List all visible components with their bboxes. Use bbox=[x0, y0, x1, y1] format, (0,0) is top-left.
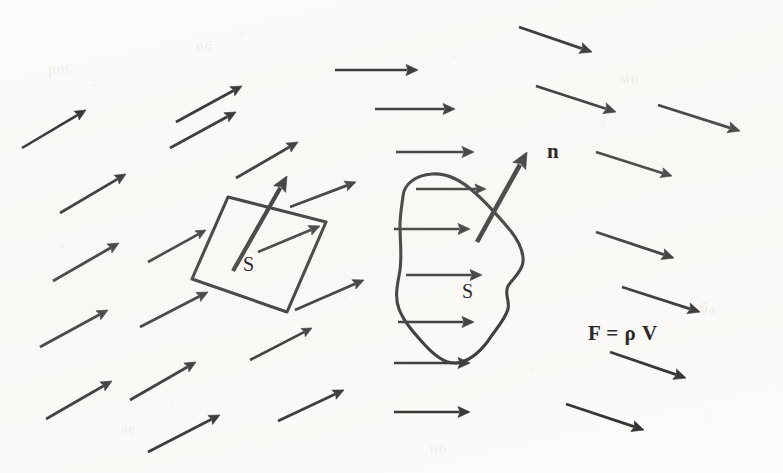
field-arrow bbox=[130, 362, 196, 400]
arrow-shaft bbox=[566, 404, 634, 427]
arrow-head-icon bbox=[462, 316, 474, 327]
field-arrow bbox=[278, 390, 344, 421]
planar-surface-outline bbox=[192, 197, 326, 312]
field-arrow bbox=[536, 86, 616, 114]
arrow-shaft bbox=[148, 234, 199, 262]
arrow-shaft bbox=[596, 232, 664, 255]
arrow-head-icon bbox=[443, 103, 455, 114]
arrow-shaft bbox=[295, 284, 355, 310]
arrow-shaft bbox=[258, 230, 311, 252]
field-arrow bbox=[335, 64, 418, 75]
arrow-shaft bbox=[596, 152, 663, 173]
flux-diagram-figure: рисобмибалено n S S F = ρ V bbox=[0, 0, 783, 473]
arrow-shaft bbox=[40, 315, 100, 347]
arrow-shaft bbox=[477, 165, 520, 242]
normal-vector-arrow bbox=[233, 176, 287, 271]
arrow-shaft bbox=[278, 394, 335, 421]
arrow-head-icon bbox=[458, 406, 470, 417]
arrow-head-icon bbox=[406, 64, 418, 75]
field-arrow bbox=[53, 243, 119, 281]
arrow-head-icon bbox=[458, 223, 470, 234]
field-arrow bbox=[258, 226, 320, 252]
field-arrow bbox=[148, 230, 206, 262]
field-arrow bbox=[596, 152, 672, 178]
field-arrow bbox=[22, 110, 86, 148]
arrow-shaft bbox=[140, 296, 200, 327]
field-arrow bbox=[394, 406, 470, 417]
field-arrow bbox=[519, 27, 592, 53]
field-arrow bbox=[396, 146, 474, 157]
field-arrow bbox=[406, 269, 482, 280]
field-arrow bbox=[622, 287, 700, 314]
field-arrow bbox=[596, 232, 674, 259]
field-arrow bbox=[610, 352, 686, 379]
field-arrow bbox=[40, 310, 108, 347]
field-arrow bbox=[60, 174, 126, 213]
vector-field-canvas bbox=[0, 0, 783, 473]
arrow-shaft bbox=[519, 27, 582, 49]
arrow-shaft bbox=[250, 332, 304, 360]
arrow-head-icon bbox=[462, 146, 474, 157]
arrow-shaft bbox=[148, 419, 212, 452]
normal-arrow-layer bbox=[233, 152, 527, 271]
field-arrow bbox=[394, 223, 470, 234]
field-arrow bbox=[140, 292, 208, 327]
field-arrow bbox=[295, 280, 364, 310]
arrow-shaft bbox=[60, 179, 118, 213]
curved-surface-outline bbox=[397, 174, 524, 363]
arrow-shaft bbox=[658, 105, 730, 128]
field-arrow bbox=[250, 328, 312, 360]
field-arrow bbox=[170, 112, 236, 148]
arrow-shaft bbox=[22, 115, 78, 148]
surface-outline-layer bbox=[192, 174, 523, 363]
field-arrow bbox=[658, 105, 740, 133]
normal-vector-arrow bbox=[477, 152, 527, 242]
field-arrow bbox=[375, 103, 455, 114]
arrow-shaft bbox=[53, 248, 111, 281]
field-arrow bbox=[236, 142, 298, 178]
field-arrow bbox=[46, 381, 112, 419]
arrow-shaft bbox=[290, 185, 347, 207]
arrow-shaft bbox=[622, 287, 690, 309]
field-arrow bbox=[148, 415, 220, 452]
arrow-shaft bbox=[46, 386, 104, 419]
arrow-shaft bbox=[610, 352, 676, 375]
arrow-shaft bbox=[236, 147, 290, 178]
arrow-shaft bbox=[536, 86, 606, 109]
arrow-shaft bbox=[130, 367, 188, 400]
field-arrow bbox=[290, 181, 356, 207]
field-arrow-layer bbox=[22, 27, 740, 452]
arrow-head-icon bbox=[470, 269, 482, 280]
field-arrow bbox=[566, 404, 644, 431]
